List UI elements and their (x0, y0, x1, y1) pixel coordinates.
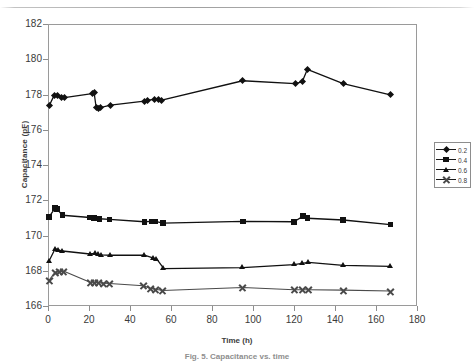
figure-chart: 182180178176174172170168166 020406080100… (0, 0, 474, 361)
x-axis-label: Time (h) (147, 336, 327, 345)
data-point-0.8 (386, 287, 395, 296)
x-tick-label: 180 (397, 315, 437, 325)
legend-square-icon (436, 155, 456, 165)
data-point-0.4 (388, 222, 394, 228)
data-point-0.4 (107, 217, 113, 223)
data-point-0.6 (291, 261, 297, 266)
data-point-0.4 (97, 216, 103, 222)
data-point-0.4 (142, 219, 148, 225)
x-tick-mark (335, 306, 336, 311)
data-point-0.8 (45, 276, 54, 285)
data-series-layer (48, 24, 417, 306)
x-tick-mark (48, 306, 49, 311)
y-tick-label: 166 (0, 301, 42, 311)
y-tick-label: 170 (0, 231, 42, 241)
y-tick-label: 180 (0, 54, 42, 64)
data-point-0.6 (98, 252, 104, 257)
y-tick-label: 168 (0, 266, 42, 276)
x-tick-mark (171, 306, 172, 311)
data-point-0.4 (54, 206, 60, 212)
data-point-0.6 (107, 252, 113, 257)
data-point-0.4 (305, 215, 311, 221)
data-point-0.8 (238, 283, 247, 292)
x-tick-label: 60 (151, 315, 191, 325)
data-point-0.4 (60, 212, 66, 218)
data-point-0.4 (240, 219, 246, 225)
data-point-0.8 (339, 286, 348, 295)
x-tick-label: 120 (274, 315, 314, 325)
x-tick-label: 20 (69, 315, 109, 325)
x-tick-mark (376, 306, 377, 311)
legend-label: 0.8 (456, 177, 467, 184)
data-point-0.4 (46, 214, 52, 220)
data-point-0.6 (340, 262, 346, 267)
data-point-0.6 (141, 252, 147, 257)
data-point-0.6 (305, 259, 311, 264)
legend-cross-icon (436, 175, 456, 185)
data-point-0.8 (158, 286, 167, 295)
series-line-0.2 (49, 69, 390, 108)
x-tick-label: 40 (110, 315, 150, 325)
figure-caption: Fig. 5. Capacitance vs. time (67, 352, 407, 361)
legend-item-0.2[interactable]: 0.2 (436, 145, 469, 155)
legend-triangle-icon (436, 165, 456, 175)
legend-label: 0.2 (456, 147, 467, 154)
legend-item-0.4[interactable]: 0.4 (436, 155, 469, 165)
data-point-0.4 (340, 217, 346, 223)
x-tick-label: 0 (28, 315, 68, 325)
x-tick-mark (253, 306, 254, 311)
x-tick-mark (294, 306, 295, 311)
data-point-0.6 (160, 265, 166, 270)
x-tick-mark (417, 306, 418, 311)
data-point-0.8 (105, 279, 114, 288)
legend-item-0.6[interactable]: 0.6 (436, 165, 469, 175)
legend-label: 0.6 (456, 167, 467, 174)
legend: 0.20.40.60.8 (434, 142, 471, 188)
x-tick-label: 80 (192, 315, 232, 325)
data-point-0.6 (153, 256, 159, 261)
data-point-0.6 (239, 264, 245, 269)
y-axis-label: Capacitance (pF) (20, 95, 29, 215)
legend-label: 0.4 (456, 157, 467, 164)
x-tick-label: 140 (315, 315, 355, 325)
y-tick-label: 182 (0, 19, 42, 29)
data-point-0.6 (299, 260, 305, 265)
data-point-0.8 (304, 285, 313, 294)
data-point-0.4 (291, 219, 297, 225)
x-tick-label: 160 (356, 315, 396, 325)
series-lines (48, 24, 417, 306)
data-point-0.8 (59, 267, 68, 276)
x-tick-mark (212, 306, 213, 311)
data-point-0.6 (387, 263, 393, 268)
data-point-0.4 (160, 220, 166, 226)
legend-diamond-icon (436, 145, 456, 155)
data-point-0.4 (153, 219, 159, 225)
legend-item-0.8[interactable]: 0.8 (436, 175, 469, 185)
x-tick-label: 100 (233, 315, 273, 325)
x-tick-mark (89, 306, 90, 311)
x-tick-mark (130, 306, 131, 311)
data-point-0.6 (59, 248, 65, 253)
data-point-0.6 (46, 258, 52, 263)
